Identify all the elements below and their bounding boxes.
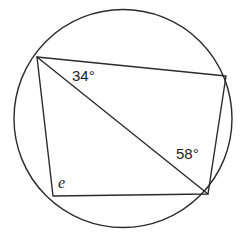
angle-label-e: e <box>58 175 65 191</box>
geometry-figure: 34° 58° e <box>0 0 247 237</box>
angle-label-34-degrees: 34° <box>72 68 95 83</box>
angle-label-58-degrees: 58° <box>176 146 199 161</box>
inscribed-quadrilateral <box>37 57 226 196</box>
geometry-canvas <box>0 0 247 237</box>
